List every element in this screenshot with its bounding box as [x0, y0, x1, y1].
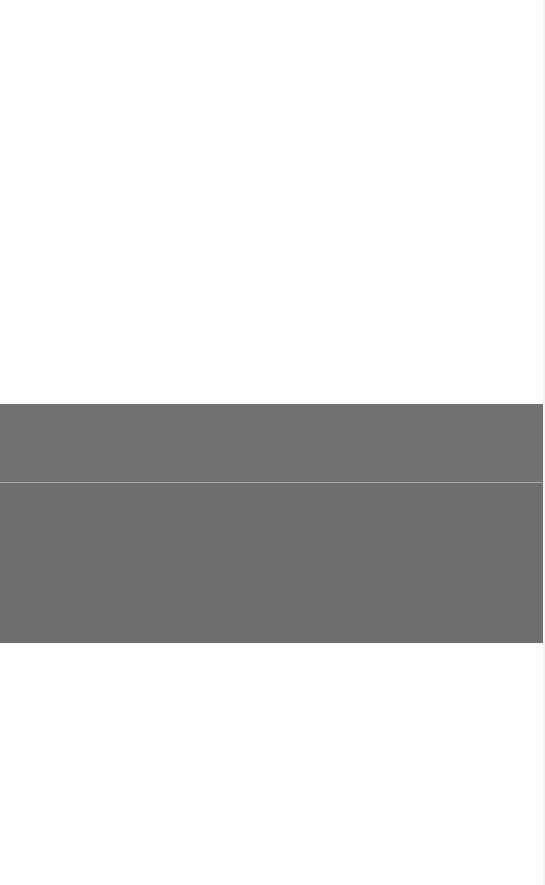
blank-page [0, 0, 545, 885]
gray-band-lower-section [0, 483, 545, 643]
gray-band [0, 404, 545, 643]
gray-band-upper-section [0, 404, 545, 482]
